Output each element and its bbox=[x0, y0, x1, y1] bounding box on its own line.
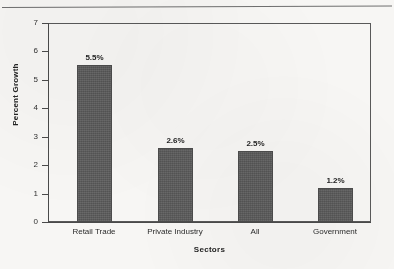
y-axis-line bbox=[48, 23, 49, 223]
bar-retail-trade bbox=[77, 65, 112, 222]
y-tick-mark bbox=[42, 194, 48, 195]
bar-value-label: 5.5% bbox=[72, 53, 117, 62]
y-tick-label: 1 bbox=[16, 190, 38, 198]
bar-value-label: 1.2% bbox=[313, 176, 358, 185]
y-tick-mark bbox=[42, 51, 48, 52]
y-tick-label: 7 bbox=[16, 19, 38, 27]
y-tick-mark bbox=[42, 23, 48, 24]
chart-page: 7 6 5 4 3 2 1 0 Percent Growth 5.5% 2.6%… bbox=[0, 0, 394, 269]
y-tick-mark bbox=[42, 165, 48, 166]
x-category-label: Retail Trade bbox=[54, 227, 134, 236]
bar-value-label: 2.5% bbox=[233, 139, 278, 148]
x-category-label: Private Industry bbox=[131, 227, 219, 236]
x-category-label: Government bbox=[295, 227, 375, 236]
bar-government bbox=[318, 188, 353, 222]
bar-value-label: 2.6% bbox=[153, 136, 198, 145]
y-axis-title: Percent Growth bbox=[11, 50, 20, 140]
bar-all bbox=[238, 151, 273, 222]
y-tick-mark bbox=[42, 80, 48, 81]
bar-private-industry bbox=[158, 148, 193, 222]
x-axis-title: Sectors bbox=[48, 245, 371, 254]
x-axis-line bbox=[48, 222, 371, 223]
y-tick-mark bbox=[42, 222, 48, 223]
y-tick-label: 2 bbox=[16, 161, 38, 169]
y-tick-mark bbox=[42, 108, 48, 109]
y-tick-label: 0 bbox=[16, 218, 38, 226]
x-category-label: All bbox=[215, 227, 295, 236]
y-tick-mark bbox=[42, 137, 48, 138]
page-divider-rule bbox=[2, 6, 392, 8]
